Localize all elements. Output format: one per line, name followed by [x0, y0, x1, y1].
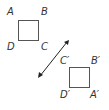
label-C: C	[41, 42, 48, 52]
label-D: D	[7, 42, 15, 52]
label-A: A	[7, 7, 14, 17]
label-B: B	[41, 7, 48, 17]
image-square	[70, 68, 90, 88]
label-D-prime: D′	[60, 90, 70, 100]
label-C-prime: C′	[60, 56, 69, 66]
label-A-prime: A′	[90, 90, 99, 100]
label-B-prime: B′	[91, 56, 100, 66]
original-square	[19, 21, 39, 41]
